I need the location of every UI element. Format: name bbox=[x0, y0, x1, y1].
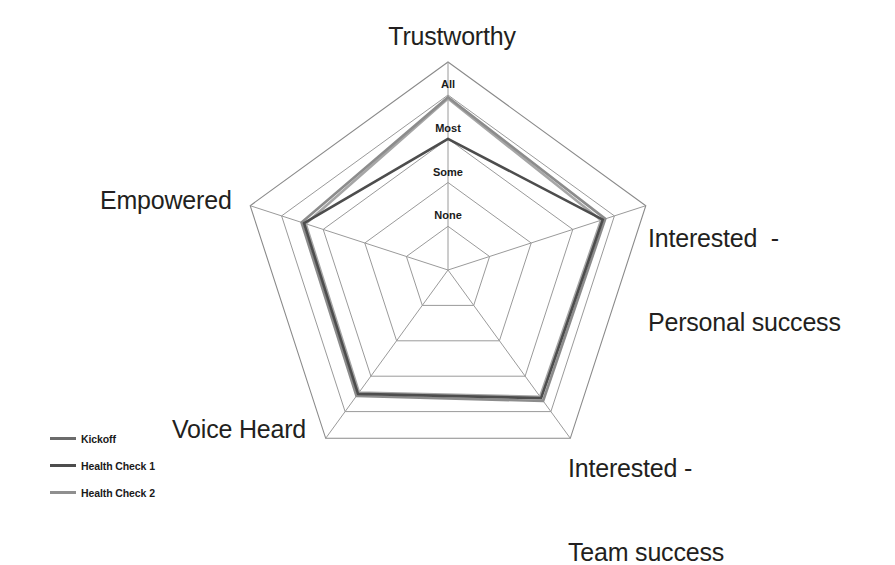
axis-label-interested-personal-success: Interested - Personal success bbox=[648, 168, 893, 392]
legend-swatch-line-icon bbox=[50, 437, 76, 440]
axis-label-trustworthy: Trustworthy bbox=[352, 22, 552, 50]
axis-label-interested-team-success: Interested - Team success bbox=[568, 398, 828, 565]
radar-spoke-2 bbox=[448, 270, 570, 438]
legend-label: Kickoff bbox=[81, 433, 116, 445]
axis-label-interested-personal-line2: Personal success bbox=[648, 308, 893, 336]
tick-label-all: All bbox=[418, 78, 478, 90]
axis-label-empowered: Empowered bbox=[100, 186, 290, 214]
axis-label-interested-team-line1: Interested - bbox=[568, 454, 828, 482]
axis-label-interested-team-line2: Team success bbox=[568, 538, 828, 565]
legend-label: Health Check 2 bbox=[81, 487, 155, 499]
chart-legend: KickoffHealth Check 1Health Check 2 bbox=[50, 425, 200, 506]
axis-label-voice-heard: Voice Heard bbox=[172, 415, 372, 443]
legend-label: Health Check 1 bbox=[81, 460, 155, 472]
legend-item-health-check-2[interactable]: Health Check 2 bbox=[50, 479, 200, 506]
legend-item-health-check-1[interactable]: Health Check 1 bbox=[50, 452, 200, 479]
tick-label-most: Most bbox=[418, 122, 478, 134]
legend-swatch-line-icon bbox=[50, 491, 76, 494]
tick-label-some: Some bbox=[418, 166, 478, 178]
tick-label-none: None bbox=[418, 209, 478, 221]
legend-swatch-line-icon bbox=[50, 464, 76, 467]
axis-label-interested-personal-line1: Interested - bbox=[648, 224, 893, 252]
legend-item-kickoff[interactable]: Kickoff bbox=[50, 425, 200, 452]
